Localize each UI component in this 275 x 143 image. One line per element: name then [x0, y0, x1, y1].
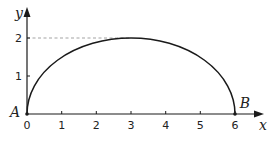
x-tick-label-1: 1 [58, 119, 65, 132]
y-axis-arrow-icon [24, 7, 31, 17]
x-tick-label-5: 5 [197, 119, 204, 132]
x-tick-label-3: 3 [128, 119, 135, 132]
x-tick-label-2: 2 [93, 119, 100, 132]
y-tick-label-2: 2 [15, 32, 22, 45]
point-a-marker [25, 112, 29, 116]
y-axis-label: y [14, 5, 24, 21]
point-a-label: A [8, 104, 20, 120]
y-tick-label-1: 1 [15, 70, 22, 83]
x-axis-label: x [259, 117, 267, 133]
x-tick-label-6: 6 [232, 119, 239, 132]
diagram-figure: 0 1 2 3 4 5 6 1 2 x y A B [0, 0, 275, 143]
diagram-canvas: 0 1 2 3 4 5 6 1 2 x y A B [0, 0, 275, 143]
point-b-label: B [239, 95, 250, 111]
x-tick-label-0: 0 [24, 119, 31, 132]
x-tick-label-4: 4 [162, 119, 169, 132]
point-b-marker [233, 112, 237, 116]
semi-ellipse-curve [27, 38, 235, 114]
